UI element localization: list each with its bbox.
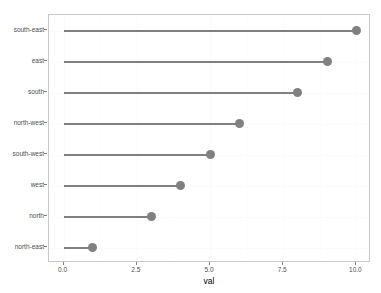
x-gridline-minor bbox=[247, 15, 248, 261]
y-tick-label: north-east bbox=[15, 243, 44, 250]
lollipop-segment bbox=[64, 92, 298, 94]
y-tick-label: south-east bbox=[14, 26, 44, 33]
x-tick-label: 5.0 bbox=[204, 267, 213, 274]
lollipop-point[interactable] bbox=[88, 243, 97, 252]
x-gridline bbox=[210, 15, 211, 261]
x-gridline-minor bbox=[320, 15, 321, 261]
x-tick-mark bbox=[209, 262, 210, 265]
y-tick-mark bbox=[44, 215, 47, 216]
x-tick-label: 7.5 bbox=[278, 267, 287, 274]
y-tick-mark bbox=[44, 184, 47, 185]
y-tick-label: north bbox=[29, 212, 44, 219]
y-tick-label: north-west bbox=[14, 119, 44, 126]
lollipop-segment bbox=[64, 61, 327, 63]
lollipop-point[interactable] bbox=[147, 212, 156, 221]
x-gridline-minor bbox=[173, 15, 174, 261]
x-tick-label: 10.0 bbox=[349, 267, 362, 274]
y-tick-mark bbox=[44, 91, 47, 92]
x-gridline bbox=[356, 15, 357, 261]
y-tick-mark bbox=[44, 29, 47, 30]
lollipop-segment bbox=[64, 216, 152, 218]
lollipop-chart-figure: south-easteastsouthnorth-westsouth-westw… bbox=[0, 0, 381, 293]
x-tick-mark bbox=[355, 262, 356, 265]
x-tick-mark bbox=[136, 262, 137, 265]
lollipop-point[interactable] bbox=[176, 181, 185, 190]
x-axis-title: val bbox=[48, 277, 370, 286]
x-gridline-minor bbox=[100, 15, 101, 261]
y-gridline bbox=[49, 248, 369, 249]
lollipop-point[interactable] bbox=[235, 119, 244, 128]
y-tick-label: east bbox=[32, 57, 44, 64]
lollipop-segment bbox=[64, 30, 357, 32]
x-tick-mark bbox=[282, 262, 283, 265]
x-tick-label: 2.5 bbox=[131, 267, 140, 274]
y-tick-mark bbox=[44, 246, 47, 247]
y-tick-label: west bbox=[31, 181, 44, 188]
lollipop-point[interactable] bbox=[323, 57, 332, 66]
x-tick-label: 0.0 bbox=[58, 267, 67, 274]
x-gridline bbox=[283, 15, 284, 261]
y-axis: south-easteastsouthnorth-westsouth-westw… bbox=[0, 14, 44, 262]
y-tick-mark bbox=[44, 122, 47, 123]
lollipop-point[interactable] bbox=[293, 88, 302, 97]
x-tick-mark bbox=[63, 262, 64, 265]
lollipop-segment bbox=[64, 154, 210, 156]
plot-panel bbox=[48, 14, 370, 262]
y-tick-mark bbox=[44, 153, 47, 154]
lollipop-segment bbox=[64, 123, 240, 125]
lollipop-point[interactable] bbox=[352, 26, 361, 35]
lollipop-segment bbox=[64, 185, 181, 187]
lollipop-point[interactable] bbox=[206, 150, 215, 159]
x-gridline bbox=[64, 15, 65, 261]
y-tick-label: south-west bbox=[13, 150, 44, 157]
y-tick-mark bbox=[44, 60, 47, 61]
x-gridline bbox=[137, 15, 138, 261]
y-tick-label: south bbox=[28, 88, 44, 95]
